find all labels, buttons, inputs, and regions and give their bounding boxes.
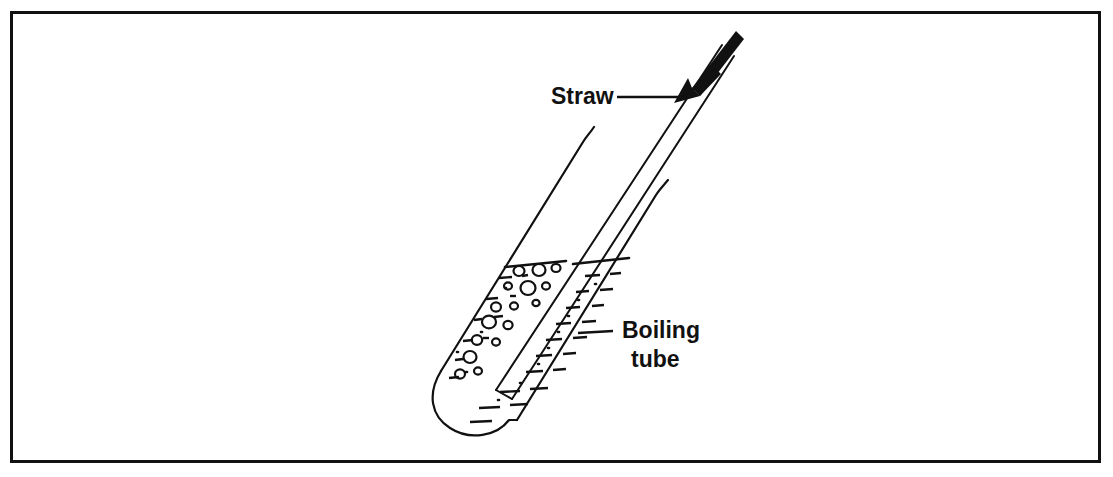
label-boiling-tube-group: Boiling tube	[578, 317, 700, 372]
liquid-dashes-left-channel	[449, 275, 528, 378]
label-boiling-tube-leader	[578, 331, 613, 333]
straw-lower-wall	[512, 56, 734, 399]
figure-root: Straw Boiling tube	[0, 0, 1113, 477]
outer-border	[12, 13, 1100, 462]
label-straw-group: Straw	[551, 83, 681, 109]
label-boiling-tube-line2: tube	[631, 346, 680, 372]
tube-right-wall	[517, 180, 668, 420]
tube-rounded-bottom	[433, 371, 517, 435]
label-straw-text: Straw	[551, 83, 614, 109]
label-boiling-tube-line1: Boiling	[622, 317, 700, 343]
airflow-arrow	[674, 31, 744, 103]
diagram-canvas: Straw Boiling tube	[0, 0, 1113, 477]
straw-group	[496, 45, 734, 399]
boiling-tube-group	[433, 127, 668, 435]
